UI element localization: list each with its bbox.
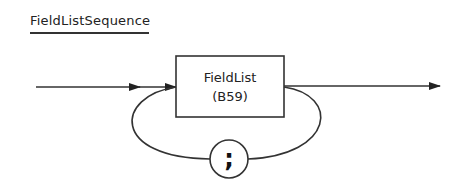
fieldlist-label: FieldList (204, 70, 257, 85)
syntax-diagram: FieldList (B59) ; (0, 0, 471, 189)
fieldlist-box: FieldList (B59) (176, 56, 284, 117)
semicolon-label: ; (224, 145, 234, 173)
fieldlist-ref-label: (B59) (212, 89, 248, 104)
separator-terminal: ; (210, 140, 248, 178)
